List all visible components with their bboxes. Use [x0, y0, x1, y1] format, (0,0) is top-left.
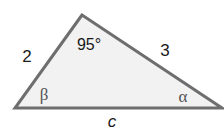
angle-label-left: β [40, 85, 49, 104]
side-label-left: 2 [22, 47, 31, 66]
angle-label-top: 95° [77, 36, 101, 53]
side-label-right: 3 [160, 41, 169, 60]
angle-label-right: α [179, 87, 188, 106]
side-label-bottom: c [108, 112, 117, 131]
triangle-diagram: 2 3 c 95° β α [0, 0, 224, 131]
